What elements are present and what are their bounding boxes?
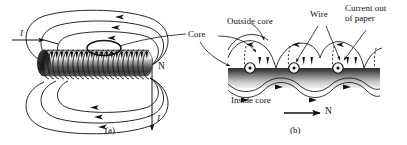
panel-b-caption: (b) xyxy=(290,126,301,135)
solenoid-magnetic-field-figure: I I S N Core (a) Outside core Wire Curre… xyxy=(0,0,407,145)
south-pole-label: S xyxy=(40,64,45,74)
wire-label: Wire xyxy=(310,10,328,19)
north-pole-label: N xyxy=(158,62,165,72)
north-direction-label: N xyxy=(325,107,332,117)
wire-label-leaders xyxy=(296,26,340,62)
core-callout-label: Core xyxy=(188,30,206,39)
inside-core-label: Inside core xyxy=(231,96,271,105)
panel-a-current-in-lead xyxy=(12,40,58,44)
current-out-label: I xyxy=(157,114,160,123)
outside-core-label: Outside core xyxy=(227,17,273,26)
current-out-of-paper-label-line2: of paper xyxy=(345,14,375,23)
current-out-label-leader xyxy=(344,30,366,60)
panel-a-caption: (a) xyxy=(105,126,115,135)
current-in-label: I xyxy=(20,29,23,38)
